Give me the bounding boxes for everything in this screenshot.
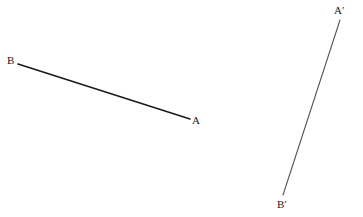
segment-ab bbox=[18, 64, 190, 119]
label-b-prime: B′ bbox=[277, 198, 287, 210]
label-b: B bbox=[7, 54, 14, 66]
segment-a-prime-b-prime bbox=[283, 20, 340, 195]
label-a-prime: A′ bbox=[334, 4, 344, 16]
segments-diagram: B A A′ B′ bbox=[0, 0, 363, 217]
label-a: A bbox=[192, 114, 200, 126]
